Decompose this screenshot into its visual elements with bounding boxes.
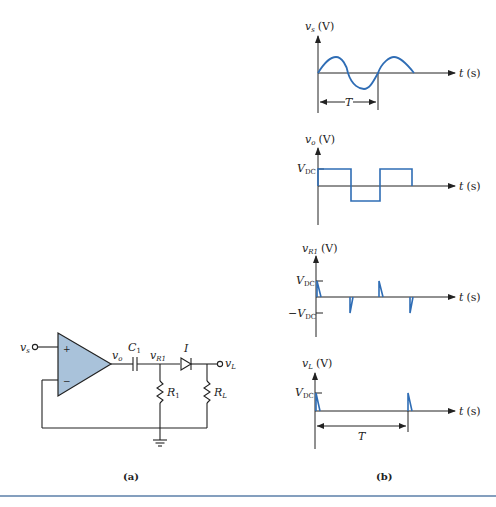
- minus-sign: −: [63, 376, 71, 386]
- vr1-neg-vdc-label: −VDC: [288, 307, 316, 321]
- resistor-rl: [204, 381, 210, 403]
- r1-label: R1: [166, 386, 180, 400]
- vl-period-label: T: [358, 430, 367, 443]
- panel-b-label: (b): [376, 471, 392, 482]
- period-label: T: [345, 96, 354, 109]
- plot-vr1: vR1(V) t(s) VDC −VDC: [288, 242, 481, 337]
- panel-a-label: (a): [123, 471, 139, 482]
- vl-vdc-label: VDC: [295, 386, 314, 400]
- plus-sign: +: [63, 344, 71, 354]
- vl-time-label: t(s): [459, 405, 481, 418]
- vo-vdc-label: VDC: [297, 162, 316, 176]
- vs-axis-label: vs(V): [305, 20, 334, 34]
- vl-axis-label: vL(V): [302, 357, 332, 371]
- vr1-axis-label: vR1(V): [302, 242, 337, 256]
- load-label: vL: [225, 357, 236, 371]
- load-spikes: [316, 393, 412, 411]
- vs-time-label: t(s): [459, 67, 481, 80]
- square-wave: [318, 169, 412, 201]
- vr1-time-label: t(s): [459, 291, 481, 304]
- opamp-symbol: [58, 333, 111, 396]
- capacitor-label: C1: [128, 341, 141, 355]
- node-label: vR1: [150, 349, 166, 363]
- ground-icon: [153, 440, 167, 446]
- rl-label: RL: [213, 386, 227, 400]
- load-terminal: [217, 361, 222, 366]
- diode-label: I: [183, 342, 189, 355]
- vr1-vdc-label: VDC: [296, 274, 315, 288]
- input-terminal: [32, 344, 37, 349]
- input-label: vs: [20, 341, 30, 355]
- resistor-r1: [157, 381, 163, 403]
- vo-time-label: t(s): [459, 180, 481, 193]
- plot-vo: vo(V) t(s) VDC: [297, 133, 481, 225]
- diode-symbol: [181, 358, 191, 370]
- output-label: vo: [112, 349, 122, 363]
- vo-axis-label: vo(V): [305, 133, 335, 147]
- plot-vl: vL(V) t(s) VDC T: [295, 357, 481, 449]
- plot-vs: vs(V) t(s) T: [305, 20, 481, 113]
- figure-canvas: vs + − vo C1 vR1 I vL R1 RL (a) vs(V) t(…: [0, 0, 496, 507]
